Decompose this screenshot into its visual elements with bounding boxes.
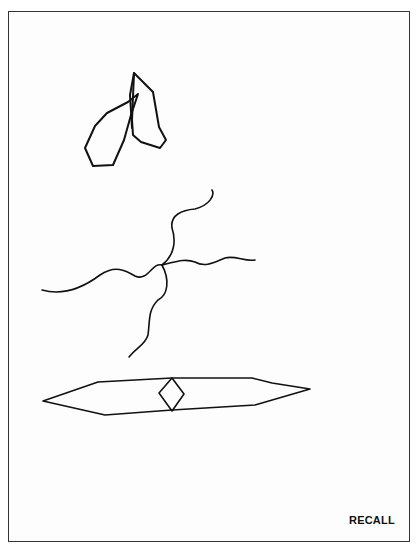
wavy-cross-figure: [42, 190, 255, 357]
recall-label: RECALL: [349, 514, 395, 526]
elongated-hexagon-figure: [43, 378, 310, 415]
overlapping-pentagons-figure: [85, 73, 166, 166]
recall-drawing: [0, 0, 418, 554]
